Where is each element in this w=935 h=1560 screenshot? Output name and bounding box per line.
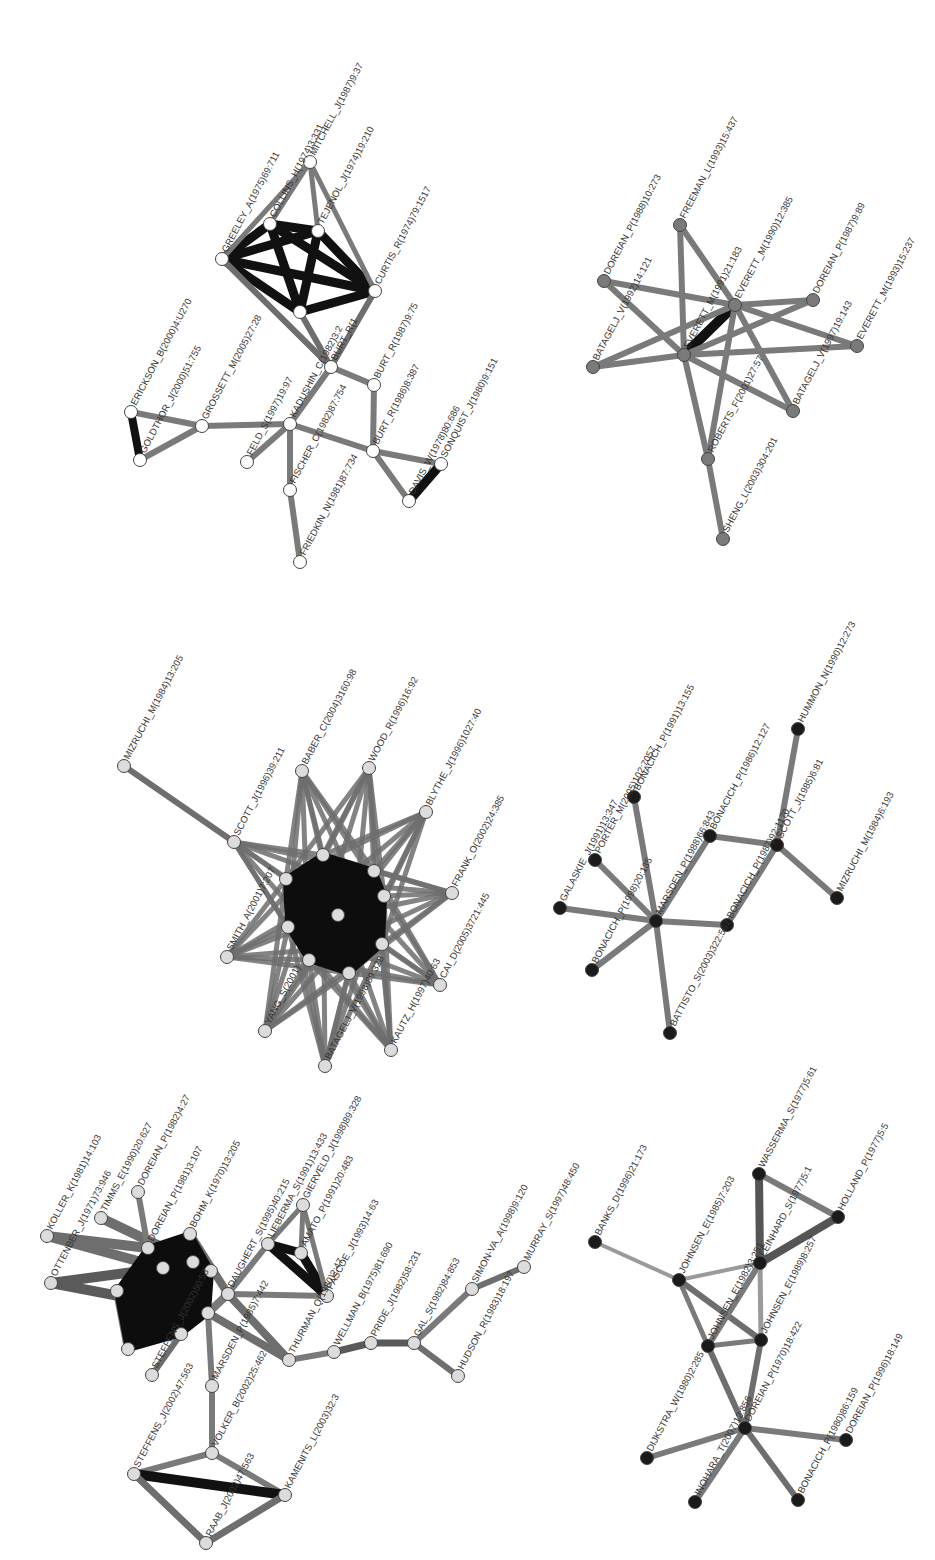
network-node[interactable] <box>729 299 742 312</box>
network-node[interactable] <box>319 1060 332 1073</box>
network-node[interactable] <box>283 1354 296 1367</box>
edge <box>745 1428 798 1500</box>
network-node[interactable] <box>368 865 381 878</box>
network-node[interactable] <box>111 1285 124 1298</box>
network-node[interactable] <box>284 484 297 497</box>
network-node[interactable] <box>832 1211 845 1224</box>
network-node[interactable] <box>118 760 131 773</box>
network-node[interactable] <box>295 1247 308 1260</box>
network-node[interactable] <box>367 445 380 458</box>
network-node[interactable] <box>673 1274 686 1287</box>
network-node[interactable] <box>363 762 376 775</box>
network-node[interactable] <box>128 1468 141 1481</box>
network-node[interactable] <box>228 836 241 849</box>
network-node[interactable] <box>365 1337 378 1350</box>
network-node[interactable] <box>650 915 663 928</box>
network-node[interactable] <box>259 1025 272 1038</box>
network-node[interactable] <box>376 938 389 951</box>
network-node[interactable] <box>328 1346 341 1359</box>
network-node[interactable] <box>452 1370 465 1383</box>
network-node[interactable] <box>280 873 293 886</box>
network-node[interactable] <box>586 964 599 977</box>
network-node[interactable] <box>294 556 307 569</box>
network-node[interactable] <box>840 1434 853 1447</box>
network-node[interactable] <box>241 456 254 469</box>
network-node[interactable] <box>317 849 330 862</box>
network-node[interactable] <box>587 361 600 374</box>
node-label: FRIEDKIN_N(1981)87:734 <box>297 452 360 557</box>
network-node[interactable] <box>689 1496 702 1509</box>
network-node[interactable] <box>851 340 864 353</box>
network-node[interactable] <box>368 379 381 392</box>
network-node[interactable] <box>466 1283 479 1296</box>
node-label: CAI_D(2005)3721:445 <box>437 891 491 980</box>
network-node[interactable] <box>312 225 325 238</box>
network-node[interactable] <box>434 979 447 992</box>
node-label: GOLDTHOR_J(2000)51:755 <box>137 343 203 454</box>
network-node[interactable] <box>294 306 307 319</box>
network-node[interactable] <box>435 458 448 471</box>
network-node[interactable] <box>216 253 229 266</box>
network-node[interactable] <box>807 294 820 307</box>
network-node[interactable] <box>598 275 611 288</box>
network-node[interactable] <box>187 1256 200 1269</box>
network-node[interactable] <box>664 1027 677 1040</box>
network-node[interactable] <box>41 1230 54 1243</box>
network-node[interactable] <box>332 909 345 922</box>
network-node[interactable] <box>284 418 297 431</box>
network-node[interactable] <box>787 405 800 418</box>
network-node[interactable] <box>202 1307 215 1320</box>
network-node[interactable] <box>554 902 567 915</box>
node-label: KAMENITS_L(2003)32:3 <box>282 1392 341 1490</box>
network-node[interactable] <box>343 967 356 980</box>
network-node[interactable] <box>678 349 691 362</box>
network-node[interactable] <box>403 495 416 508</box>
network-node[interactable] <box>200 1537 213 1550</box>
network-node[interactable] <box>589 1236 602 1249</box>
network-node[interactable] <box>45 1277 58 1290</box>
network-node[interactable] <box>146 1369 159 1382</box>
network-node[interactable] <box>446 887 459 900</box>
network-node[interactable] <box>792 1494 805 1507</box>
network-node[interactable] <box>297 1199 310 1212</box>
network-node[interactable] <box>132 1186 145 1199</box>
network-node[interactable] <box>142 1242 155 1255</box>
network-node[interactable] <box>196 420 209 433</box>
network-node[interactable] <box>279 1489 292 1502</box>
network-node[interactable] <box>222 1288 235 1301</box>
network-node[interactable] <box>134 454 147 467</box>
network-node[interactable] <box>674 219 687 232</box>
network-node[interactable] <box>157 1262 170 1275</box>
network-node[interactable] <box>95 1212 108 1225</box>
network-node[interactable] <box>184 1228 197 1241</box>
network-node[interactable] <box>221 951 234 964</box>
network-node[interactable] <box>755 1334 768 1347</box>
network-node[interactable] <box>206 1380 219 1393</box>
network-node[interactable] <box>641 1452 654 1465</box>
edge <box>777 845 837 898</box>
network-node[interactable] <box>702 453 715 466</box>
network-node[interactable] <box>206 1447 219 1460</box>
network-node[interactable] <box>408 1337 421 1350</box>
network-node[interactable] <box>264 218 277 231</box>
network-node[interactable] <box>122 1343 135 1356</box>
edge <box>124 766 234 842</box>
network-node[interactable] <box>702 1340 715 1353</box>
network-node[interactable] <box>518 1261 531 1274</box>
network-node[interactable] <box>385 1044 398 1057</box>
network-node[interactable] <box>125 406 138 419</box>
network-node[interactable] <box>420 806 433 819</box>
network-node[interactable] <box>303 954 316 967</box>
edge <box>708 1340 761 1346</box>
network-node[interactable] <box>369 285 382 298</box>
network-node[interactable] <box>262 1238 275 1251</box>
edge <box>656 921 727 925</box>
network-node[interactable] <box>792 723 805 736</box>
network-node[interactable] <box>717 533 730 546</box>
network-node[interactable] <box>753 1168 766 1181</box>
network-node[interactable] <box>831 892 844 905</box>
node-label: DOREIAN_P(1987)9:89 <box>810 201 867 295</box>
network-node[interactable] <box>378 890 391 903</box>
network-node[interactable] <box>282 921 295 934</box>
network-node[interactable] <box>296 765 309 778</box>
